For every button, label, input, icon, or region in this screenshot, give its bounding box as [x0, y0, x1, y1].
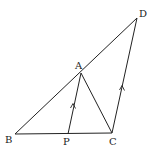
segment-BC [15, 133, 112, 134]
label-B: B [5, 134, 12, 145]
segment-BD [15, 18, 137, 134]
label-A: A [74, 60, 83, 71]
label-D: D [139, 8, 147, 19]
label-P: P [63, 136, 70, 147]
label-C: C [109, 136, 117, 147]
segment-CD [112, 18, 137, 133]
segment-AC [81, 73, 112, 133]
geometry-diagram: A B C D P [0, 0, 155, 149]
